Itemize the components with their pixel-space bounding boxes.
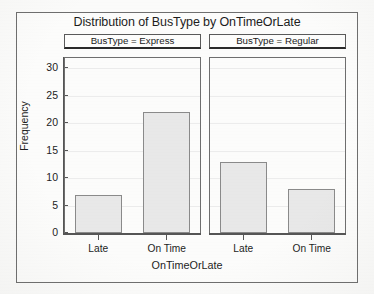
gridline — [210, 151, 345, 152]
x-axis-line — [209, 233, 346, 235]
y-tick-label: 15 — [30, 144, 58, 156]
chart-screenshot: Distribution of BusType by OnTimeOrLate … — [0, 0, 374, 294]
gridline — [65, 96, 200, 97]
y-tick-label: 0 — [30, 226, 58, 238]
x-tick — [98, 235, 99, 240]
bar-express-late — [75, 195, 122, 233]
x-tick — [243, 235, 244, 240]
bar-regular-late — [220, 162, 267, 233]
y-tick-label: 30 — [30, 61, 58, 73]
bar-express-on-time — [143, 112, 190, 233]
gridline — [210, 96, 345, 97]
y-tick-label: 5 — [30, 199, 58, 211]
gridline — [65, 68, 200, 69]
x-tick — [166, 235, 167, 240]
x-tick-label: On Time — [282, 243, 342, 254]
y-axis-label: Frequency — [18, 81, 30, 171]
panel-header-regular: BusType = Regular — [209, 34, 346, 49]
x-tick-label: On Time — [137, 243, 197, 254]
x-tick-label: Late — [68, 243, 128, 254]
bar-regular-on-time — [288, 189, 335, 233]
x-tick — [311, 235, 312, 240]
panel-header-express: BusType = Express — [64, 34, 201, 49]
y-tick-label: 20 — [30, 116, 58, 128]
gridline — [210, 68, 345, 69]
chart-title: Distribution of BusType by OnTimeOrLate — [16, 15, 358, 29]
gridline — [210, 123, 345, 124]
y-tick-label: 10 — [30, 171, 58, 183]
x-axis-line — [64, 233, 201, 235]
y-tick-label: 25 — [30, 89, 58, 101]
x-tick-label: Late — [213, 243, 273, 254]
x-axis-label: OnTimeOrLate — [16, 259, 358, 271]
